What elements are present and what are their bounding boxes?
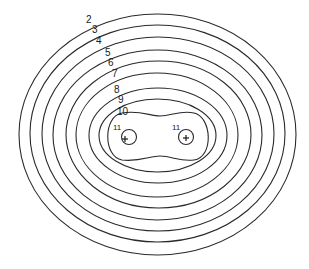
contour-line-8 xyxy=(89,88,227,183)
contour-label-10: 10 xyxy=(117,106,129,117)
contour-lines xyxy=(19,14,296,255)
contour-line-4 xyxy=(42,37,274,231)
contour-label-6: 6 xyxy=(108,57,114,68)
source-label: 11 xyxy=(113,123,122,132)
contour-label-3: 3 xyxy=(92,24,98,35)
contour-line-5 xyxy=(53,50,262,220)
contour-label-9: 9 xyxy=(118,94,124,105)
source-1: 11 xyxy=(113,123,137,145)
contour-diagram: 2345678910 1111 xyxy=(0,0,309,269)
contour-line-7 xyxy=(76,73,238,197)
point-sources: 1111 xyxy=(113,123,194,145)
source-label: 11 xyxy=(172,123,181,132)
contour-line-6 xyxy=(66,61,251,208)
contour-label-7: 7 xyxy=(112,68,118,79)
source-2: 11 xyxy=(172,123,194,145)
contour-label-4: 4 xyxy=(96,35,102,46)
contour-line-11 xyxy=(122,130,137,145)
contour-line-3 xyxy=(30,25,285,242)
